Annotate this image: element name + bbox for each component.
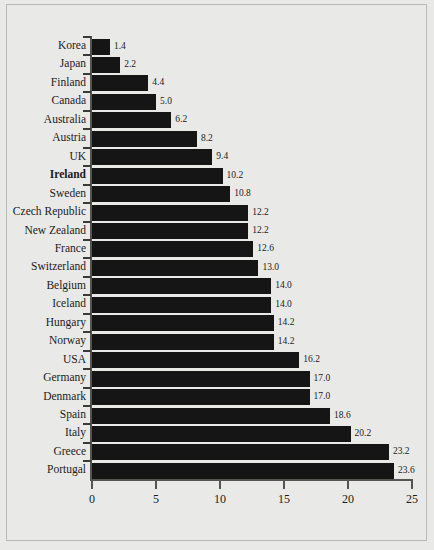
category-label: Germany [0, 370, 86, 384]
category-label: Switzerland [0, 259, 86, 273]
bar-value-label: 10.2 [227, 169, 244, 182]
bar [92, 39, 110, 55]
category-label: UK [0, 149, 86, 163]
x-axis-tick [283, 481, 285, 489]
bar-value-label: 23.6 [398, 464, 415, 477]
category-label: Iceland [0, 296, 86, 310]
bar-value-label: 20.2 [355, 427, 372, 440]
x-axis-tick-label: 20 [342, 492, 354, 507]
bar-value-label: 12.2 [252, 224, 269, 237]
bar-value-label: 13.0 [262, 261, 279, 274]
category-label: Czech Republic [0, 204, 86, 218]
bar-value-label: 12.2 [252, 206, 269, 219]
bar [92, 408, 330, 424]
bar [92, 444, 389, 460]
bar [92, 131, 197, 147]
category-label: Ireland [0, 167, 86, 181]
bar [92, 278, 271, 294]
category-label: Hungary [0, 315, 86, 329]
bar-value-label: 17.0 [314, 390, 331, 403]
category-label: Australia [0, 112, 86, 126]
category-label: USA [0, 352, 86, 366]
x-axis-tick-label: 25 [406, 492, 418, 507]
category-label: Finland [0, 75, 86, 89]
bar-row: Portugal23.6 [0, 460, 434, 482]
x-axis-tick-label: 0 [89, 492, 95, 507]
bar-value-label: 1.4 [114, 40, 126, 53]
bar [92, 334, 274, 350]
bar [92, 94, 156, 110]
bar [92, 186, 230, 202]
bar-value-label: 5.0 [160, 95, 172, 108]
bar-value-label: 8.2 [201, 132, 213, 145]
bar-value-label: 10.8 [234, 187, 251, 200]
category-label: Korea [0, 38, 86, 52]
bar-value-label: 18.6 [334, 409, 351, 422]
bar [92, 149, 212, 165]
bar-value-label: 14.2 [278, 316, 295, 329]
bar [92, 426, 351, 442]
category-label: Italy [0, 425, 86, 439]
category-label: Denmark [0, 389, 86, 403]
bar [92, 75, 148, 91]
category-label: Canada [0, 93, 86, 107]
bar-value-label: 2.2 [124, 58, 136, 71]
bar [92, 205, 248, 221]
bar [92, 57, 120, 73]
bar-value-label: 16.2 [303, 353, 320, 366]
bar-value-label: 17.0 [314, 372, 331, 385]
bar-value-label: 14.2 [278, 335, 295, 348]
category-label: Sweden [0, 186, 86, 200]
bar [92, 168, 223, 184]
category-label: Norway [0, 333, 86, 347]
x-axis-tick [219, 481, 221, 489]
x-axis-tick-label: 15 [278, 492, 290, 507]
bar [92, 315, 274, 331]
category-label: Austria [0, 130, 86, 144]
bar [92, 371, 310, 387]
bar-value-label: 4.4 [152, 76, 164, 89]
bar-value-label: 12.6 [257, 242, 274, 255]
bar [92, 297, 271, 313]
bar-value-label: 14.0 [275, 279, 292, 292]
category-label: France [0, 241, 86, 255]
chart-figure: Korea1.4Japan2.2Finland4.4Canada5.0Austr… [0, 0, 434, 550]
x-axis-tick-label: 5 [153, 492, 159, 507]
x-axis-tick-label: 10 [214, 492, 226, 507]
plot-area: Korea1.4Japan2.2Finland4.4Canada5.0Austr… [0, 0, 434, 550]
category-label: Spain [0, 407, 86, 421]
bar [92, 389, 310, 405]
x-axis-tick [411, 481, 413, 489]
category-label: Portugal [0, 462, 86, 476]
category-label: Greece [0, 444, 86, 458]
bar [92, 223, 248, 239]
bar [92, 112, 171, 128]
x-axis-tick [347, 481, 349, 489]
bar [92, 241, 253, 257]
bar [92, 260, 258, 276]
category-label: New Zealand [0, 223, 86, 237]
category-label: Belgium [0, 278, 86, 292]
category-label: Japan [0, 56, 86, 70]
bar-value-label: 9.4 [216, 150, 228, 163]
bar-value-label: 14.0 [275, 298, 292, 311]
x-axis-tick [91, 481, 93, 489]
bar [92, 352, 299, 368]
bar [92, 463, 394, 479]
bar-value-label: 23.2 [393, 445, 410, 458]
bar-value-label: 6.2 [175, 113, 187, 126]
x-axis-tick [155, 481, 157, 489]
